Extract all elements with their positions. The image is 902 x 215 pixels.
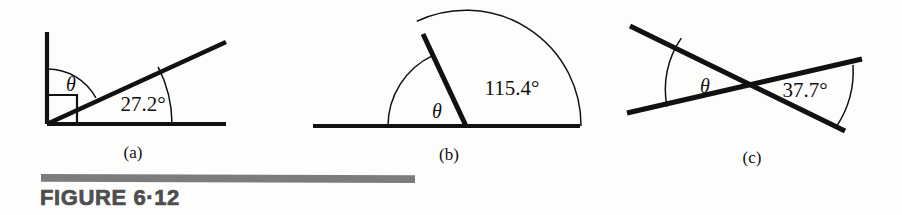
figure-caption-block: FIGURE 6·12 xyxy=(0,168,902,215)
panel-c-theta-label: θ xyxy=(700,75,710,97)
panel-c-known-angle-arc xyxy=(836,65,853,127)
panel-c-caption: (c) xyxy=(743,148,762,167)
figure-number-label: FIGURE 6·12 xyxy=(40,185,180,211)
panel-c-known-angle-label: 37.7° xyxy=(782,78,827,102)
figure-caption-rule xyxy=(41,174,415,183)
figure-6-12: θ 27.2° (a) θ 115.4° (b) xyxy=(0,0,902,215)
